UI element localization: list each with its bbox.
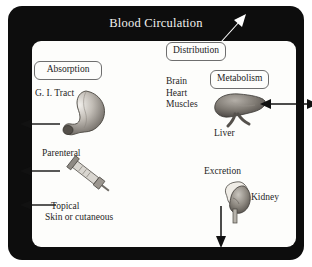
label-liver: Liver <box>214 128 235 140</box>
label-brain: Brain <box>166 76 187 86</box>
stomach-icon <box>56 89 112 141</box>
label-target-organs: Brain Heart Muscles <box>166 76 198 111</box>
blood-circulation-diagram: Blood Circulation Distribution Absorptio… <box>0 0 312 267</box>
label-muscles: Muscles <box>166 99 198 109</box>
page-title: Blood Circulation <box>8 16 304 31</box>
label-skin-or-cutaneous: Skin or cutaneous <box>45 212 113 224</box>
label-kidney: Kidney <box>251 192 279 204</box>
arrow-left-icon-parenteral <box>20 165 60 177</box>
arrow-double-horizontal-icon <box>260 97 312 111</box>
arrow-left-icon-gi <box>20 118 60 130</box>
diagram-frame: Blood Circulation Distribution Absorptio… <box>8 6 304 260</box>
label-topical: Topical <box>51 201 79 213</box>
label-heart: Heart <box>166 88 187 98</box>
label-box-distribution[interactable]: Distribution <box>166 42 226 61</box>
syringe-icon <box>64 154 116 198</box>
liver-icon <box>211 92 267 128</box>
arrow-down-icon <box>214 206 228 248</box>
label-box-absorption[interactable]: Absorption <box>34 61 102 80</box>
label-box-metabolism[interactable]: Metabolism <box>210 70 269 89</box>
